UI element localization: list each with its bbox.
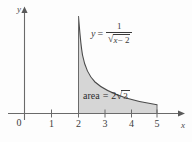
x-axis-arrowhead bbox=[178, 110, 185, 116]
x-tick-label-1: 1 bbox=[46, 119, 58, 129]
area-equals-sign: = bbox=[103, 90, 109, 101]
area-annotation-label: area = 2 √ 3 bbox=[83, 90, 130, 101]
radicand: x− 2 bbox=[113, 34, 131, 45]
x-tick-label-2: 2 bbox=[73, 119, 85, 129]
equation-equals-sign: = bbox=[97, 29, 103, 39]
equation-denominator: √ x− 2 bbox=[106, 33, 132, 45]
area-radicand: 3 bbox=[121, 90, 130, 101]
x-axis-label: x bbox=[181, 121, 185, 130]
x-tick-label-3: 3 bbox=[99, 119, 111, 129]
area-radical-group: √ 3 bbox=[116, 90, 130, 101]
origin-label: 0 bbox=[13, 118, 25, 128]
x-tick-label-5: 5 bbox=[151, 119, 163, 129]
y-axis-label: y bbox=[17, 5, 21, 14]
x-tick-label-4: 4 bbox=[126, 119, 138, 129]
equation-numerator: 1 bbox=[114, 22, 125, 32]
equation-fraction: 1 √ x− 2 bbox=[106, 22, 132, 45]
area-word: area bbox=[83, 90, 100, 101]
radicand-remainder: − 2 bbox=[118, 35, 130, 45]
figure-container: y x 0 1 2 3 4 5 y = 1 √ x− 2 area = 2 √ … bbox=[0, 0, 192, 142]
y-axis-arrowhead bbox=[21, 7, 27, 14]
radical-group: √ x− 2 bbox=[108, 34, 130, 45]
curve-equation-label: y = 1 √ x− 2 bbox=[91, 22, 132, 45]
equation-lhs: y bbox=[91, 29, 95, 39]
